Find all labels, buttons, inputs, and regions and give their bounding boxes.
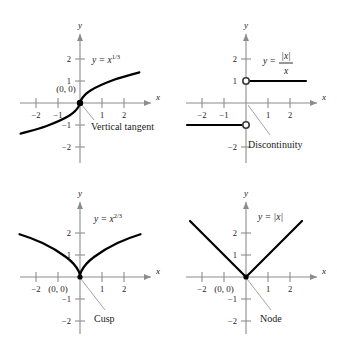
equation-sign-function: y = |x| x (262, 51, 293, 76)
y-tick-label--2: −2 (62, 142, 71, 152)
annotation-label: Discontinuity (248, 139, 302, 150)
x-axis-arrow (144, 100, 151, 106)
equation-lhs: y (257, 212, 263, 222)
equation-two-thirds-power: y=x2/3 (93, 212, 122, 224)
figure-four-graphs: −2 −1 1 2 2 1 −1 −2 x y Vertical tangent… (0, 0, 337, 343)
x-tick-label--2: −2 (31, 284, 40, 294)
y-tick-label-2: 2 (233, 54, 237, 64)
plot-two-thirds-power: −2 1 2 2 1 −1 −2 x y Cusp (0, 0) y=x2/3 (8, 176, 168, 341)
origin-point-marker (77, 274, 82, 279)
y-tick-label--2: −2 (62, 316, 71, 326)
origin-point-label: (0, 0) (56, 84, 76, 94)
y-axis-arrow (77, 202, 83, 209)
x-tick-label-1: 1 (266, 110, 270, 120)
plot-absolute-value: −2 1 2 2 1 −1 −2 x y Node (0, 0) y=|x| (174, 176, 334, 341)
equation-lhs: y (91, 55, 97, 65)
x-tick-label--2: −2 (197, 110, 206, 120)
panel-two-thirds-power: −2 1 2 2 1 −1 −2 x y Cusp (0, 0) y=x2/3 (8, 176, 168, 341)
plot-sign-function: −2 −1 1 2 2 1 −2 x y Discontinuity y = |… (174, 8, 334, 173)
svg-text:y=x2/3: y=x2/3 (93, 212, 122, 224)
annotation-node: Node (247, 279, 282, 324)
x-tick-label-2: 2 (122, 110, 126, 120)
panel-cube-root: −2 −1 1 2 2 1 −1 −2 x y Vertical tangent… (8, 8, 168, 173)
plot-cube-root: −2 −1 1 2 2 1 −1 −2 x y Vertical tangent… (8, 8, 168, 173)
equation-equals: = (99, 55, 104, 65)
segment-left-branch (190, 221, 246, 277)
x-tick-label-2: 2 (288, 110, 292, 120)
x-tick-label-1: 1 (266, 284, 270, 294)
equation-exponent: 1/3 (112, 53, 120, 60)
open-point-upper-marker (243, 78, 249, 84)
y-tick-label-2: 2 (67, 54, 71, 64)
leader-line (82, 105, 94, 120)
equation-equals: = (270, 56, 275, 66)
equation-lhs: y (93, 214, 99, 224)
equation-cube-root: y=x1/3 (91, 53, 120, 65)
y-tick-label--1: −1 (228, 294, 237, 304)
x-tick-label--2: −2 (197, 284, 206, 294)
x-axis-arrow (310, 274, 317, 280)
equation-numerator: |x| (281, 51, 290, 61)
panel-absolute-value: −2 1 2 2 1 −1 −2 x y Node (0, 0) y=|x| (174, 176, 334, 341)
x-axis-label: x (155, 92, 160, 102)
x-tick-label-1: 1 (100, 284, 104, 294)
annotation-discontinuity: Discontinuity (248, 105, 302, 150)
equation-exponent: 2/3 (114, 212, 122, 219)
equation-absolute-value: y=|x| (257, 212, 283, 222)
x-axis-arrow (310, 100, 317, 106)
x-tick-label--1: −1 (219, 110, 228, 120)
equation-equals: = (265, 212, 270, 222)
annotation-cusp: Cusp (81, 279, 115, 324)
y-tick-label--1: −1 (62, 294, 71, 304)
x-tick-label-1: 1 (100, 110, 104, 120)
equation-expr: |x| (274, 212, 283, 222)
origin-point-marker (243, 274, 248, 279)
y-tick-label-2: 2 (233, 228, 237, 238)
y-axis-label: y (77, 188, 82, 198)
y-axis-label: y (77, 20, 82, 30)
x-tick-label--2: −2 (31, 110, 40, 120)
y-tick-label-2: 2 (67, 228, 71, 238)
x-axis-label: x (321, 266, 326, 276)
equation-equals: = (101, 214, 106, 224)
y-axis-arrow (77, 34, 83, 41)
y-axis-label: y (243, 20, 248, 30)
x-axis-label: x (321, 92, 326, 102)
svg-text:y=x1/3: y=x1/3 (91, 53, 120, 65)
y-tick-label--2: −2 (228, 316, 237, 326)
y-tick-label--2: −2 (228, 142, 237, 152)
y-tick-label--1: −1 (62, 120, 71, 130)
y-tick-label-1: 1 (233, 250, 237, 260)
x-axis-arrow (144, 274, 151, 280)
x-tick-label-2: 2 (288, 284, 292, 294)
y-axis-label: y (243, 188, 248, 198)
open-point-lower-marker (243, 122, 249, 128)
segment-right-branch (246, 221, 302, 277)
svg-text:y=|x|: y=|x| (257, 212, 283, 222)
x-tick-label--1: −1 (53, 110, 62, 120)
y-tick-label-1: 1 (233, 76, 237, 86)
annotation-label: Node (260, 313, 282, 324)
origin-point-label: (0, 0) (48, 284, 68, 294)
annotation-label: Vertical tangent (91, 121, 154, 132)
axes-absolute-value (186, 202, 317, 334)
x-axis-label: x (155, 266, 160, 276)
origin-point-label: (0, 0) (214, 284, 234, 294)
equation-denominator: x (283, 66, 289, 76)
x-tick-label-2: 2 (122, 284, 126, 294)
panel-sign-function: −2 −1 1 2 2 1 −2 x y Discontinuity y = |… (174, 8, 334, 173)
axes-cube-root (20, 34, 151, 163)
axes-two-thirds-power (20, 202, 151, 334)
annotation-vertical-tangent: Vertical tangent (82, 105, 154, 132)
equation-lhs: y (262, 56, 268, 66)
annotation-label: Cusp (94, 313, 115, 324)
origin-point-marker (77, 100, 83, 106)
y-axis-arrow (243, 202, 249, 209)
y-axis-arrow (243, 34, 249, 41)
